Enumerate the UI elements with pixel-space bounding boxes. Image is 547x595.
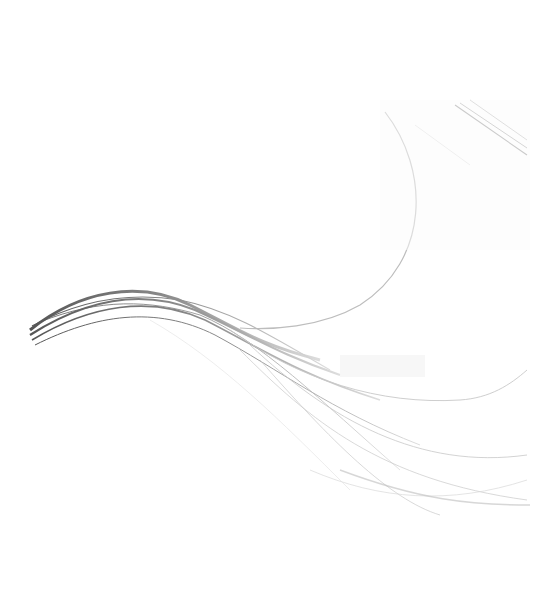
wave-lines (0, 0, 547, 595)
lower-sweeps (150, 320, 530, 515)
main-wave-bundle (30, 291, 420, 470)
faint-highlight (340, 355, 425, 377)
abstract-wave-background (0, 0, 547, 595)
faint-panel-right (380, 100, 530, 250)
